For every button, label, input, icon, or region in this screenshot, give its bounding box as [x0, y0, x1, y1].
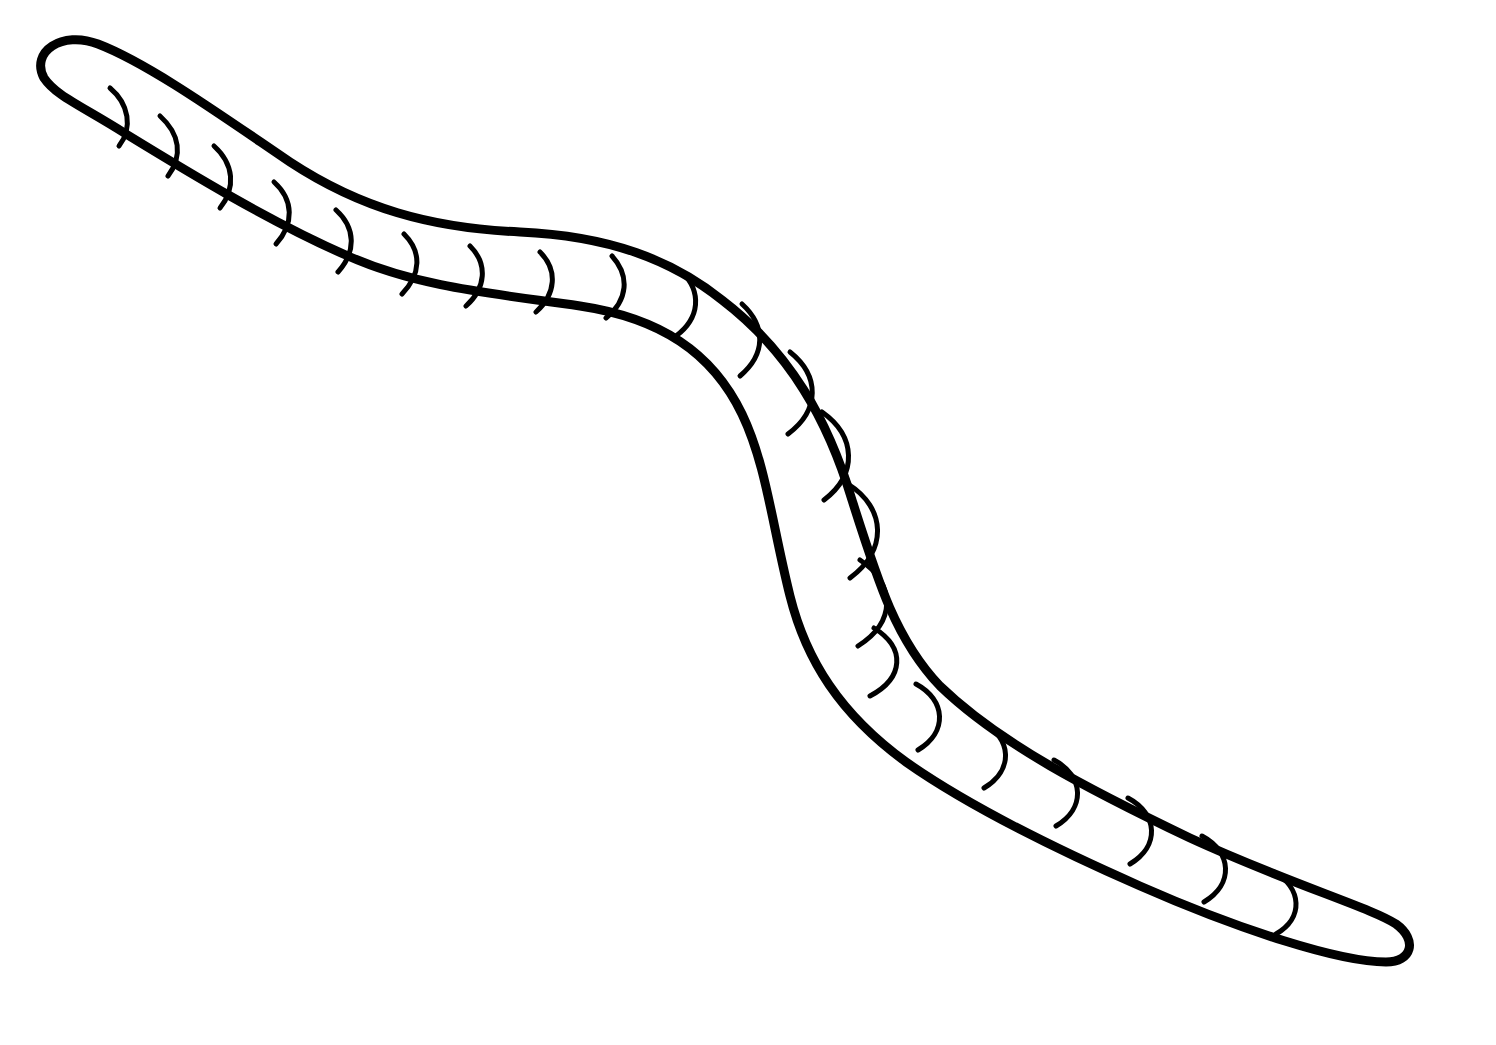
drawing-canvas: Earthworm Line Drawing [0, 0, 1496, 1045]
earthworm-illustration [0, 0, 1496, 1045]
